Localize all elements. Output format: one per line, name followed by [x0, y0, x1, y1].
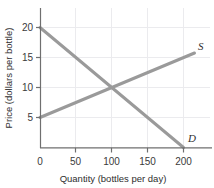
y-tick-label-15: 15: [22, 52, 34, 63]
gridlines-vertical: [76, 8, 184, 148]
x-tick-label-150: 150: [139, 156, 156, 167]
y-axis-ticks: [36, 28, 41, 118]
x-axis-ticks: [76, 148, 184, 153]
supply-curve-label: S: [198, 40, 204, 52]
x-tick-label-50: 50: [70, 156, 82, 167]
demand-curve-label: D: [187, 132, 196, 144]
x-axis-title: Quantity (bottles per day): [60, 173, 167, 184]
x-tick-label-0: 0: [37, 156, 43, 167]
y-axis-title: Price (dollars per bottle): [3, 28, 14, 129]
x-tick-label-200: 200: [175, 156, 192, 167]
supply-curve: [40, 53, 195, 118]
chart-canvas: 20 15 10 5 0 50 100 150 200 S D Quantity…: [0, 0, 214, 188]
supply-demand-chart: 20 15 10 5 0 50 100 150 200 S D Quantity…: [0, 0, 214, 188]
y-tick-label-5: 5: [27, 112, 33, 123]
gridlines-horizontal: [40, 28, 210, 118]
y-tick-label-20: 20: [22, 22, 34, 33]
x-tick-label-100: 100: [103, 156, 120, 167]
y-tick-label-10: 10: [22, 82, 34, 93]
